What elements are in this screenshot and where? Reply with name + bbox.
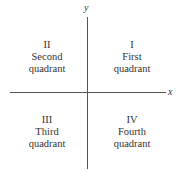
x-axis-label: x [168, 86, 172, 97]
quadrant-numeral: IV [97, 114, 167, 126]
quadrant-name: Second [12, 51, 82, 63]
quadrant-1-label: I First quadrant [97, 39, 167, 75]
quadrant-word: quadrant [12, 63, 82, 75]
y-axis [87, 17, 88, 169]
quadrant-4-label: IV Fourth quadrant [97, 114, 167, 150]
quadrant-numeral: II [12, 39, 82, 51]
quadrant-word: quadrant [97, 63, 167, 75]
coordinate-plane-diagram: y x II Second quadrant I First quadrant … [0, 0, 183, 171]
quadrant-2-label: II Second quadrant [12, 39, 82, 75]
quadrant-numeral: III [12, 114, 82, 126]
quadrant-name: Third [12, 126, 82, 138]
quadrant-3-label: III Third quadrant [12, 114, 82, 150]
quadrant-numeral: I [97, 39, 167, 51]
quadrant-word: quadrant [12, 138, 82, 150]
quadrant-name: First [97, 51, 167, 63]
quadrant-word: quadrant [97, 138, 167, 150]
y-axis-label: y [84, 2, 88, 13]
x-axis [10, 92, 166, 93]
quadrant-name: Fourth [97, 126, 167, 138]
